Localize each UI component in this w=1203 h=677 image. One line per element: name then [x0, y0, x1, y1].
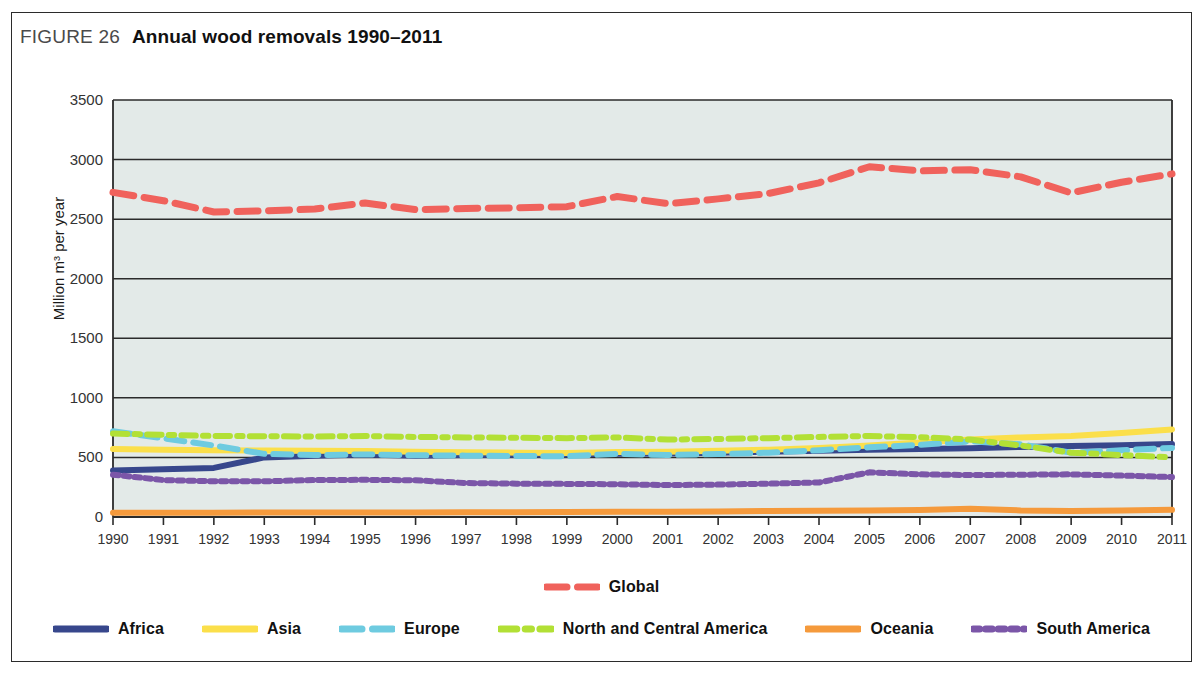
legend-label: Oceania: [870, 620, 933, 638]
legend-item-asia[interactable]: Asia: [202, 620, 301, 638]
x-tick-label: 2010: [1098, 531, 1146, 547]
x-tick-label: 2001: [644, 531, 692, 547]
x-tick-label: 2009: [1047, 531, 1095, 547]
y-axis-title: Million m³ per year: [50, 179, 67, 339]
x-tick-label: 1992: [190, 531, 238, 547]
x-tick-label: 1998: [492, 531, 540, 547]
y-tick-label: 3500: [51, 91, 103, 108]
y-tick-label: 3000: [51, 151, 103, 168]
x-tick-label: 2000: [593, 531, 641, 547]
y-tick-label: 0: [51, 508, 103, 525]
x-tick-label: 1990: [89, 531, 137, 547]
legend-label: Asia: [267, 620, 301, 638]
x-tick-label: 2007: [946, 531, 994, 547]
legend-item-north-and-central-america[interactable]: North and Central America: [498, 620, 768, 638]
legend-label: Africa: [118, 620, 164, 638]
legend-label: North and Central America: [563, 620, 768, 638]
legend-item-global[interactable]: Global: [544, 578, 659, 596]
legend-row-regions: AfricaAsiaEuropeNorth and Central Americ…: [0, 620, 1203, 638]
chart-plot-area: 0500100015002000250030003500 19901991199…: [0, 0, 1203, 677]
y-tick-label: 500: [51, 448, 103, 465]
x-tick-label: 2006: [896, 531, 944, 547]
legend-swatch-global-icon: [544, 580, 600, 594]
x-tick-label: 1996: [392, 531, 440, 547]
legend-item-oceania[interactable]: Oceania: [805, 620, 933, 638]
legend-label: Global: [609, 578, 659, 596]
x-tick-label: 2005: [845, 531, 893, 547]
x-tick-label: 2002: [694, 531, 742, 547]
legend-item-africa[interactable]: Africa: [53, 620, 164, 638]
x-tick-label: 1994: [291, 531, 339, 547]
x-tick-label: 1999: [543, 531, 591, 547]
legend-swatch-south-america-icon: [971, 622, 1027, 636]
x-tick-label: 1995: [341, 531, 389, 547]
legend-row-global: Global: [0, 578, 1203, 596]
legend-label: Europe: [404, 620, 460, 638]
x-tick-label: 2004: [795, 531, 843, 547]
legend-label: South America: [1036, 620, 1150, 638]
legend-item-south-america[interactable]: South America: [971, 620, 1150, 638]
x-tick-label: 1997: [442, 531, 490, 547]
line-chart: [0, 0, 1203, 560]
x-tick-label: 2008: [997, 531, 1045, 547]
legend-swatch-europe-icon: [339, 622, 395, 636]
y-tick-label: 1000: [51, 389, 103, 406]
legend-item-europe[interactable]: Europe: [339, 620, 460, 638]
legend-swatch-oceania-icon: [805, 622, 861, 636]
x-tick-label: 1993: [240, 531, 288, 547]
x-tick-label: 2003: [745, 531, 793, 547]
legend-swatch-africa-icon: [53, 622, 109, 636]
x-tick-label: 1991: [139, 531, 187, 547]
legend-swatch-north-and-central-america-icon: [498, 622, 554, 636]
legend-swatch-asia-icon: [202, 622, 258, 636]
x-tick-label: 2011: [1148, 531, 1196, 547]
